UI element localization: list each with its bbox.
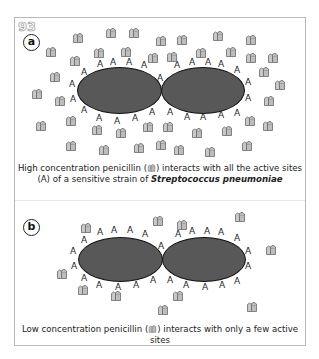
active-site: A <box>97 228 103 237</box>
penicillin-molecule-icon <box>242 141 253 152</box>
active-site: A <box>167 108 173 117</box>
active-site: A <box>70 247 76 256</box>
penicillin-molecule-icon <box>226 47 237 58</box>
caption-b-text-1: Low concentration penicillin ( <box>22 324 148 334</box>
active-site: A <box>70 95 76 104</box>
penicillin-molecule-icon <box>275 80 286 91</box>
penicillin-molecule-icon <box>259 67 270 78</box>
penicillin-molecule-icon <box>205 147 216 158</box>
active-site: A <box>133 281 139 290</box>
active-site: A <box>234 109 240 118</box>
penicillin-molecule-icon <box>153 216 164 227</box>
active-site: A <box>141 61 147 70</box>
penicillin-molecule-icon <box>266 245 277 256</box>
active-site: A <box>202 283 208 292</box>
penicillin-molecule-icon <box>36 121 47 132</box>
panel-label-a: a <box>23 34 40 51</box>
penicillin-molecule-icon <box>222 126 233 137</box>
penicillin-molecule-icon <box>246 53 257 64</box>
penicillin-molecule-icon <box>158 305 169 316</box>
active-site: A <box>219 281 225 290</box>
active-site: A <box>69 80 75 89</box>
penicillin-molecule-icon <box>70 56 81 67</box>
penicillin-molecule-icon <box>92 125 103 136</box>
caption-b-text-2: ) interacts with only a few active <box>157 324 298 334</box>
penicillin-molecule-icon <box>55 96 66 107</box>
penicillin-molecule-icon <box>192 128 203 139</box>
active-site: A <box>110 58 116 67</box>
active-site: A <box>218 60 224 69</box>
penicillin-molecule-icon <box>177 35 188 46</box>
penicillin-molecule-icon <box>148 53 159 64</box>
active-site: A <box>205 58 211 67</box>
active-site: A <box>81 106 87 115</box>
active-site: A <box>81 68 87 77</box>
penicillin-molecule-icon <box>156 140 167 151</box>
penicillin-molecule-icon <box>143 122 154 133</box>
penicillin-molecule-icon <box>99 145 110 156</box>
bacterial-cell-right <box>161 67 245 114</box>
caption-a-text-2: ) interacts with all the active sites <box>156 163 302 173</box>
penicillin-molecule-icon <box>73 33 84 44</box>
active-site: A <box>150 276 156 285</box>
active-site: A <box>158 242 164 251</box>
penicillin-molecule-icon <box>268 53 279 64</box>
active-site: A <box>200 113 206 122</box>
penicillin-molecule-icon <box>78 285 89 296</box>
penicillin-molecule-icon <box>245 116 256 127</box>
penicillin-molecule-icon <box>177 220 188 231</box>
caption-b: Low concentration penicillin () interact… <box>14 324 306 346</box>
penicillin-molecule-icon <box>66 141 77 152</box>
penicillin-molecule-icon <box>196 48 207 59</box>
penicillin-molecule-icon <box>94 48 105 59</box>
penicillin-inline-icon <box>147 164 156 172</box>
active-site: A <box>81 274 87 283</box>
active-site: A <box>245 94 251 103</box>
active-site: A <box>234 234 240 243</box>
penicillin-molecule-icon <box>246 35 257 46</box>
penicillin-molecule-icon <box>50 72 61 83</box>
penicillin-molecule-icon <box>129 28 140 39</box>
active-site: A <box>114 117 120 126</box>
active-site: A <box>96 114 102 123</box>
active-site: A <box>126 58 132 67</box>
species-name: Streptococcus pneumoniae <box>151 174 283 184</box>
active-site: A <box>81 236 87 245</box>
active-site: A <box>245 247 251 256</box>
active-site: A <box>71 262 77 271</box>
penicillin-molecule-icon <box>106 28 117 39</box>
active-site: A <box>132 114 138 123</box>
penicillin-molecule-icon <box>235 212 246 223</box>
penicillin-molecule-icon <box>263 121 274 132</box>
active-site: A <box>167 276 173 285</box>
active-site: A <box>189 227 195 236</box>
penicillin-molecule-icon <box>173 291 184 302</box>
caption-a-text-3: (A) of a sensitive strain of <box>37 174 151 184</box>
penicillin-molecule-icon <box>121 47 132 58</box>
caption-a-text-1: High concentration penicillin ( <box>18 163 147 173</box>
caption-a: High concentration penicillin () interac… <box>14 163 306 185</box>
penicillin-molecule-icon <box>167 52 178 63</box>
figure-number: 93 <box>18 19 36 34</box>
active-site: A <box>245 78 251 87</box>
penicillin-molecule-icon <box>156 36 167 47</box>
penicillin-molecule-icon <box>116 128 127 139</box>
penicillin-molecule-icon <box>111 291 122 302</box>
penicillin-molecule-icon <box>163 122 174 133</box>
panel-divider <box>15 200 305 201</box>
active-site: A <box>218 228 224 237</box>
active-site: A <box>111 226 117 235</box>
penicillin-inline-icon <box>148 325 157 333</box>
penicillin-molecule-icon <box>264 96 275 107</box>
penicillin-molecule-icon <box>46 47 57 58</box>
active-site: A <box>183 281 189 290</box>
penicillin-molecule-icon <box>247 302 258 313</box>
active-site: A <box>234 277 240 286</box>
active-site: A <box>142 230 148 239</box>
active-site: A <box>234 66 240 75</box>
penicillin-molecule-icon <box>66 116 77 127</box>
penicillin-molecule-icon <box>81 223 92 234</box>
active-site: A <box>127 226 133 235</box>
active-site: A <box>96 281 102 290</box>
penicillin-molecule-icon <box>174 145 185 156</box>
